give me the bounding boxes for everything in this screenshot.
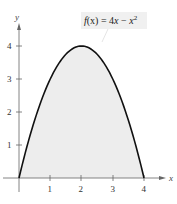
y-ticks: 1 2 3 4 xyxy=(7,41,22,150)
chart: x y 1 2 3 4 1 2 3 4 f(x) = 4x − x2 xyxy=(0,0,177,204)
x-axis-arrow-icon xyxy=(159,176,166,180)
x-axis-label: x xyxy=(168,173,173,183)
y-axis-arrow-icon xyxy=(17,23,21,30)
y-axis-label: y xyxy=(14,12,19,22)
x-tick-label: 3 xyxy=(111,184,116,194)
x-tick-label: 1 xyxy=(48,184,53,194)
x-tick-label: 4 xyxy=(142,184,147,194)
y-tick-label: 2 xyxy=(7,107,12,117)
x-tick-label: 2 xyxy=(79,184,84,194)
y-tick-label: 1 xyxy=(7,140,12,150)
label-leader-line xyxy=(102,29,108,42)
y-tick-label: 4 xyxy=(7,41,12,51)
function-label: f(x) = 4x − x2 xyxy=(84,14,138,27)
y-tick-label: 3 xyxy=(7,74,12,84)
